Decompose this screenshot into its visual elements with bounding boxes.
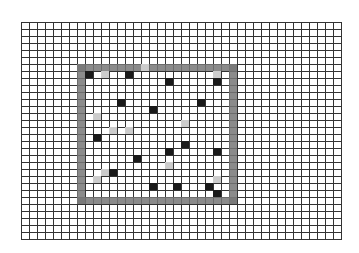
box-border-right [229, 64, 237, 204]
light-cell [109, 127, 117, 134]
dark-cell [125, 71, 133, 78]
dark-cell [197, 99, 205, 106]
dark-cell [93, 134, 101, 141]
cell-grid [21, 22, 342, 240]
dark-cell [165, 78, 173, 85]
dark-cell [109, 169, 117, 176]
light-cell [93, 176, 101, 183]
light-cell [141, 64, 149, 71]
dark-cell [213, 78, 221, 85]
light-cell [181, 120, 189, 127]
light-cell [93, 113, 101, 120]
light-cell [101, 71, 109, 78]
light-cell [101, 169, 109, 176]
dark-cell [213, 148, 221, 155]
dark-cell [117, 99, 125, 106]
dark-cell [165, 148, 173, 155]
dark-cell [205, 183, 213, 190]
box-border-left [77, 64, 85, 204]
box-border-top [77, 64, 237, 71]
dark-cell [149, 183, 157, 190]
dark-cell [149, 106, 157, 113]
dark-cell [181, 141, 189, 148]
light-cell [213, 176, 221, 183]
dark-cell [213, 190, 221, 197]
dark-cell [173, 183, 181, 190]
dark-cell [133, 155, 141, 162]
box-border-bottom [77, 197, 237, 204]
dark-cell [85, 71, 93, 78]
light-cell [125, 127, 133, 134]
light-cell [213, 71, 221, 78]
light-cell [165, 162, 173, 169]
